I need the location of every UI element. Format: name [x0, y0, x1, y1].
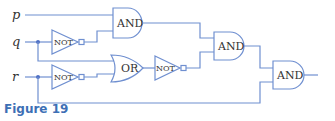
- and-gate-3: AND: [273, 61, 304, 89]
- and-gate-2-label: AND: [217, 40, 245, 53]
- and-gate-1-label: AND: [116, 17, 144, 30]
- input-label-r: r: [12, 69, 19, 84]
- wire-and2-out: [244, 46, 273, 68]
- not-gate-r-label: NOT: [54, 73, 74, 82]
- wire-not-r: [84, 74, 116, 77]
- input-label-q: q: [12, 34, 20, 49]
- not-gate-or-label: NOT: [156, 64, 176, 73]
- and-gate-3-label: AND: [276, 69, 304, 82]
- input-label-p: p: [12, 7, 21, 22]
- or-gate: OR: [111, 55, 143, 82]
- and-gate-1: AND: [113, 8, 144, 38]
- or-gate-label: OR: [121, 62, 139, 75]
- wire-q-branch: [38, 42, 115, 61]
- not-gate-r: NOT: [52, 65, 84, 89]
- and-gate-2: AND: [214, 32, 245, 60]
- not-gate-or: NOT: [155, 56, 186, 80]
- not-gate-q: NOT: [52, 30, 84, 54]
- wire-and1-out: [142, 23, 214, 38]
- wire-not-or-out: [186, 52, 214, 68]
- wire-r-branch: [38, 77, 273, 103]
- wire-not-q: [84, 31, 113, 42]
- figure-caption: Figure 19: [4, 102, 68, 116]
- not-gate-q-label: NOT: [54, 38, 74, 47]
